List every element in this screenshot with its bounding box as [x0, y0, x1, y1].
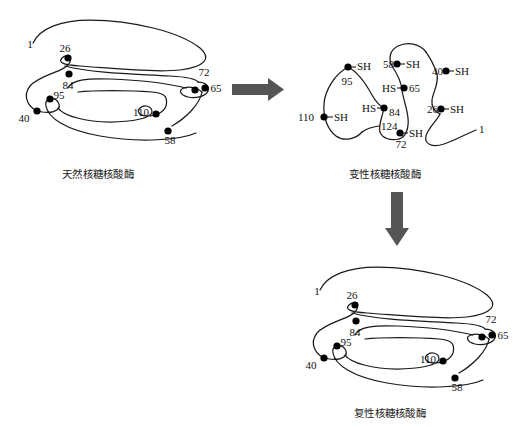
- native-label-40: 40: [19, 112, 31, 124]
- denatured-label-65: 65: [409, 82, 421, 94]
- denatured-sh-58: SH: [406, 58, 420, 70]
- denatured-label-72: 72: [396, 138, 407, 150]
- native-label-58: 58: [165, 134, 177, 146]
- denatured-sh-72: SH: [409, 127, 423, 139]
- figure-root: 1 26 84 95 40 110 72 65 58: [0, 0, 515, 427]
- native-chain-inner-84: [68, 79, 186, 88]
- denatured-hs-65: HS: [382, 82, 396, 94]
- denatured-sh-110: SH: [334, 111, 348, 123]
- denatured-label-95: 95: [342, 75, 354, 87]
- renatured-label-110: 110: [420, 353, 437, 365]
- native-label-95: 95: [54, 89, 66, 101]
- native-label-1: 1: [27, 38, 33, 50]
- denatured-sh-40: SH: [455, 65, 469, 77]
- denatured-hs-84: HS: [362, 102, 376, 114]
- native-node-40: [33, 107, 40, 114]
- denaturation-arrow-shape: [232, 78, 284, 101]
- ribonuclease-diagram: 1 26 84 95 40 110 72 65 58: [0, 0, 515, 427]
- denatured-chain-124-tail: [362, 126, 379, 132]
- denaturation-arrow: [232, 78, 284, 101]
- renatured-node-72: [478, 333, 485, 340]
- native-label-65: 65: [211, 82, 223, 94]
- renatured-label-72: 72: [486, 313, 497, 325]
- caption-denatured-ribonuclease: 变性核糖核酸酶: [349, 166, 421, 181]
- native-node-72: [191, 86, 198, 93]
- denatured-label-26: 26: [427, 103, 439, 115]
- denatured-sh-26: SH: [450, 103, 464, 115]
- denatured-node-95: [344, 63, 351, 70]
- renatured-label-26: 26: [347, 289, 359, 301]
- native-node-26: [64, 54, 71, 61]
- denatured-label-84: 84: [389, 106, 401, 118]
- native-label-72: 72: [199, 66, 210, 78]
- denatured-node-65: [400, 84, 407, 91]
- native-node-110: [152, 110, 159, 117]
- renatured-label-40: 40: [306, 359, 318, 371]
- renatured-chain-inner-84: [355, 326, 473, 335]
- renatured-node-26: [351, 301, 358, 308]
- panel-native-structure: 1 26 84 95 40 110 72 65 58: [19, 20, 223, 146]
- renatured-node-84: [352, 317, 359, 324]
- denatured-node-40: [442, 67, 449, 74]
- renatured-label-65: 65: [498, 329, 510, 341]
- native-label-110: 110: [133, 106, 150, 118]
- renatured-node-65: [488, 331, 495, 338]
- denatured-label-124: 124: [381, 120, 398, 132]
- denatured-node-110: [320, 113, 327, 120]
- panel-denatured-structure: SH SH HS SH SH HS SH SH 95 110 84 72 58 …: [298, 44, 485, 150]
- denatured-label-58: 58: [383, 58, 395, 70]
- renaturation-arrow-shape: [385, 192, 409, 246]
- native-chain-110-loop: [58, 91, 167, 123]
- panel-renatured-structure: 1 26 84 95 40 110 72 65 58: [306, 267, 510, 393]
- renaturation-arrow: [385, 192, 409, 246]
- renatured-label-95: 95: [341, 336, 353, 348]
- denatured-node-58: [393, 60, 400, 67]
- denatured-label-40: 40: [432, 65, 444, 77]
- denatured-chain-26-1: [426, 114, 476, 146]
- denatured-node-84: [380, 104, 387, 111]
- denatured-sh-95: SH: [357, 60, 371, 72]
- native-node-84: [65, 70, 72, 77]
- caption-renatured-ribonuclease: 复性核糖核酸酶: [354, 405, 426, 420]
- denatured-label-1: 1: [479, 123, 485, 135]
- denatured-label-110: 110: [298, 111, 315, 123]
- native-label-26: 26: [60, 42, 72, 54]
- renatured-node-40: [320, 354, 327, 361]
- renatured-node-110: [439, 357, 446, 364]
- native-node-65: [201, 84, 208, 91]
- renatured-chain-110-loop: [345, 338, 454, 370]
- renatured-label-1: 1: [314, 285, 320, 297]
- denatured-node-26: [437, 105, 444, 112]
- caption-native-ribonuclease: 天然核糖核酸酶: [62, 166, 134, 181]
- renatured-label-58: 58: [452, 381, 464, 393]
